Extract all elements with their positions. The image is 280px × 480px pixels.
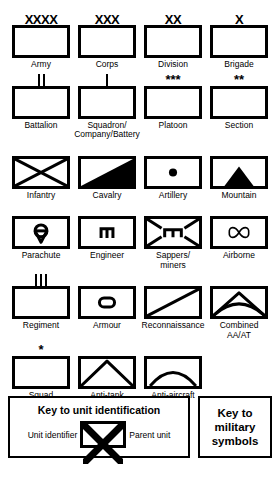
symbol-label: Airborne — [206, 251, 272, 261]
symbol-label: Corps — [74, 60, 140, 70]
symbol-cell-engineer: Engineer — [74, 203, 140, 270]
military-symbols-chart: XXXX Army XXX Corps XX Division X Brigad… — [0, 0, 280, 480]
symbol-cell-armour: Armour — [74, 273, 140, 340]
symbol-label: Battalion — [8, 121, 74, 131]
unit-box-anti-aircraft — [144, 356, 202, 389]
symbol-label: Regiment — [8, 321, 74, 331]
legend-row: Key to unit identification Unit identifi… — [8, 396, 272, 458]
echelon-area — [209, 273, 269, 286]
symbol-cell-infantry: Infantry — [8, 143, 74, 201]
symbol-cell-combined: CombinedAA/AT — [206, 273, 272, 340]
echelon-mark: X — [235, 14, 243, 25]
unit-box-squadron — [78, 86, 136, 119]
symbol-cell-cavalry: Cavalry — [74, 143, 140, 201]
echelon-mark: XX — [165, 14, 181, 25]
echelon-mark: XXX — [95, 14, 120, 25]
symbol-cell-artillery: Artillery — [140, 143, 206, 201]
symbol-grid: XXXX Army XXX Corps XX Division X Brigad… — [0, 0, 280, 404]
echelon-area: XX — [143, 12, 203, 25]
echelon-mark — [106, 74, 108, 86]
symbol-cell-squadron: Squadron/Company/Battery — [74, 73, 140, 140]
echelon-area — [143, 203, 203, 216]
echelon-area — [11, 273, 71, 286]
symbol-cell-anti-tank: Anti-tank — [74, 343, 140, 401]
echelon-area: X — [209, 12, 269, 25]
legend-parent-unit-box — [80, 421, 126, 448]
echelon-area: ** — [209, 73, 269, 86]
symbol-label: Sappers/miners — [140, 251, 206, 270]
echelon-area — [77, 273, 137, 286]
echelon-area — [143, 273, 203, 286]
symbol-label: Engineer — [74, 251, 140, 261]
echelon-mark: XXXX — [25, 14, 58, 25]
unit-box-platoon — [144, 86, 202, 119]
symbol-cell-sappers: Sappers/miners — [140, 203, 206, 270]
symbol-cell-corps: XXX Corps — [74, 12, 140, 70]
unit-identification-legend: Key to unit identification Unit identifi… — [8, 396, 190, 458]
echelon-mark — [38, 74, 45, 86]
echelon-area — [143, 143, 203, 156]
legend-right-label: Parent unit — [129, 430, 170, 440]
symbol-label: Mountain — [206, 191, 272, 201]
echelon-area — [11, 73, 71, 86]
unit-box-mountain — [210, 156, 268, 189]
symbol-cell-parachute: Parachute — [8, 203, 74, 270]
echelon-mark: ** — [234, 73, 244, 86]
echelon-mark: *** — [165, 73, 180, 86]
symbol-label: Division — [140, 60, 206, 70]
echelon-area — [209, 143, 269, 156]
unit-box-infantry — [12, 156, 70, 189]
symbol-cell-brigade: X Brigade — [206, 12, 272, 70]
echelon-area: * — [11, 343, 71, 356]
unit-box-engineer — [78, 216, 136, 249]
echelon-area — [77, 143, 137, 156]
unit-box-airborne — [210, 216, 268, 249]
unit-box-brigade — [210, 25, 268, 58]
symbol-label: Reconnaissance — [140, 321, 206, 331]
symbol-cell-platoon: *** Platoon — [140, 73, 206, 140]
symbol-label: Armour — [74, 321, 140, 331]
echelon-area — [11, 143, 71, 156]
symbol-label: Cavalry — [74, 191, 140, 201]
unit-box-reconnaissance — [144, 286, 202, 319]
symbol-cell-mountain: Mountain — [206, 143, 272, 201]
unit-box-artillery — [144, 156, 202, 189]
unit-box-regiment — [12, 286, 70, 319]
symbol-label: CombinedAA/AT — [206, 321, 272, 340]
unit-box-division — [144, 25, 202, 58]
echelon-area — [77, 343, 137, 356]
symbol-cell-division: XX Division — [140, 12, 206, 70]
symbol-label: Section — [206, 121, 272, 131]
echelon-area: *** — [143, 73, 203, 86]
unit-box-army — [12, 25, 70, 58]
symbol-cell-reconnaissance: Reconnaissance — [140, 273, 206, 340]
unit-box-anti-tank — [78, 356, 136, 389]
unit-box-sappers — [144, 216, 202, 249]
unit-box-squad — [12, 356, 70, 389]
legend-body: Unit identifier Parent unit — [16, 421, 182, 448]
unit-box-section — [210, 86, 268, 119]
symbol-cell-anti-aircraft: Anti-aircraft — [140, 343, 206, 401]
symbol-label: Parachute — [8, 251, 74, 261]
echelon-area: XXX — [77, 12, 137, 25]
echelon-area — [209, 203, 269, 216]
symbol-label: Squadron/Company/Battery — [74, 121, 140, 140]
legend-title: Key to unit identification — [38, 404, 161, 416]
symbol-cell-battalion: Battalion — [8, 73, 74, 140]
symbol-cell-squad: * Squad — [8, 343, 74, 401]
unit-box-cavalry — [78, 156, 136, 189]
symbol-label: Infantry — [8, 191, 74, 201]
key-title-text: Key tomilitarysymbols — [212, 406, 259, 448]
echelon-area: XXXX — [11, 12, 71, 25]
symbol-cell-section: ** Section — [206, 73, 272, 140]
symbol-cell-army: XXXX Army — [8, 12, 74, 70]
echelon-area — [77, 203, 137, 216]
echelon-mark: * — [38, 343, 43, 356]
key-to-military-symbols: Key tomilitarysymbols — [198, 396, 272, 458]
symbol-cell-airborne: Airborne — [206, 203, 272, 270]
echelon-area — [77, 73, 137, 86]
symbol-label: Brigade — [206, 60, 272, 70]
symbol-label: Army — [8, 60, 74, 70]
unit-box-battalion — [12, 86, 70, 119]
echelon-area — [143, 343, 203, 356]
